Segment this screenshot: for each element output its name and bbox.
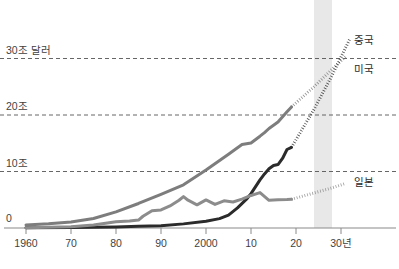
x-axis-labels: 19607080902000102030년: [14, 237, 352, 249]
x-axis-label-1980: 80: [110, 237, 122, 249]
series-line-미국: [26, 107, 292, 225]
series-line-중국: [26, 147, 292, 227]
forecast-band: [314, 0, 332, 228]
y-axis-labels: 30조 달러20조10조0: [6, 44, 51, 225]
y-axis-label-10: 10조: [6, 157, 28, 169]
chart-container: 30조 달러20조10조0 19607080902000102030년 미국중국…: [0, 0, 399, 269]
x-axis-label-2000: 2000: [194, 237, 218, 249]
x-axis-label-2020: 20: [290, 237, 302, 249]
forecast-shaded-band: [314, 0, 332, 228]
y-axis-label-30: 30조 달러: [6, 44, 51, 56]
series-label-중국: 중국: [354, 34, 374, 46]
x-axis-label-2030: 30년: [330, 237, 352, 249]
y-axis-label-20: 20조: [6, 100, 28, 112]
series-lines: [26, 39, 350, 228]
y-axis-label-0: 0: [6, 212, 12, 224]
x-axis-label-1960: 1960: [14, 237, 38, 249]
x-axis-label-1970: 70: [65, 237, 77, 249]
series-label-미국: 미국: [354, 63, 374, 75]
series-labels: 미국중국일본: [354, 34, 374, 188]
series-label-일본: 일본: [354, 176, 374, 188]
gdp-projection-line-chart: 30조 달러20조10조0 19607080902000102030년 미국중국…: [0, 0, 399, 269]
gridlines: [0, 59, 399, 172]
x-axis-label-1990: 90: [155, 237, 167, 249]
x-axis-label-2010: 10: [245, 237, 257, 249]
